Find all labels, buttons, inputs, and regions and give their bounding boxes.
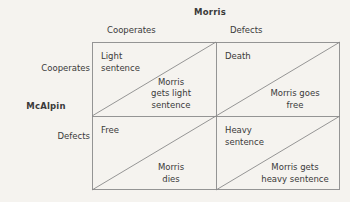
matrix-cell: Light sentence Morris gets light sentenc… bbox=[92, 42, 216, 116]
column-player-label: Morris bbox=[170, 7, 250, 17]
column-header-cooperates: Cooperates bbox=[107, 25, 156, 35]
column-player-payoff: Morris goes free bbox=[254, 88, 336, 111]
row-player-payoff: Light sentence bbox=[101, 51, 175, 74]
matrix-grid: Light sentence Morris gets light sentenc… bbox=[92, 42, 340, 190]
row-player-payoff: Death bbox=[225, 51, 299, 63]
matrix-cell: Death Morris goes free bbox=[216, 42, 340, 116]
row-player-payoff: Heavy sentence bbox=[225, 125, 299, 148]
matrix-cell: Heavy sentence Morris gets heavy sentenc… bbox=[216, 116, 340, 190]
column-player-payoff: Morris gets heavy sentence bbox=[254, 162, 336, 185]
row-header-defects: Defects bbox=[10, 131, 90, 141]
row-player-payoff: Free bbox=[101, 125, 175, 137]
column-player-payoff: Morris dies bbox=[130, 162, 212, 185]
payoff-matrix-diagram: Morris McAlpin Cooperates Defects Cooper… bbox=[0, 0, 350, 202]
column-header-defects: Defects bbox=[230, 25, 262, 35]
row-header-cooperates: Cooperates bbox=[10, 63, 90, 73]
column-player-payoff: Morris gets light sentence bbox=[130, 77, 212, 112]
row-player-label: McAlpin bbox=[8, 101, 84, 111]
matrix-cell: Free Morris dies bbox=[92, 116, 216, 190]
